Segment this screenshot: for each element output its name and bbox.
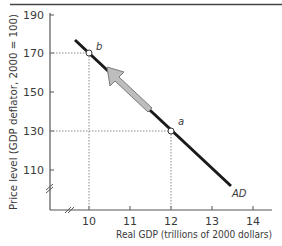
point-a-label: a	[178, 116, 184, 127]
y-tick-130: 130	[23, 125, 44, 138]
point-b	[86, 50, 92, 56]
ad-chart: 190 170 150 130 110 10 11 12 13 14 Real …	[0, 0, 282, 246]
ad-curve-label: AD	[231, 188, 247, 199]
y-axis	[46, 13, 54, 210]
x-tick-10: 10	[82, 215, 96, 228]
y-tick-170: 170	[23, 47, 44, 60]
x-tick-14: 14	[246, 215, 260, 228]
y-axis-title: Price level (GDP deflator, 2000 = 100)	[8, 14, 19, 210]
movement-arrow	[107, 67, 152, 112]
x-tick-13: 13	[205, 215, 219, 228]
y-tick-110: 110	[23, 164, 44, 177]
x-axis	[50, 206, 272, 213]
x-axis-title: Real GDP (trillions of 2000 dollars)	[116, 229, 272, 240]
y-tick-150: 150	[23, 86, 44, 99]
y-tick-190: 190	[23, 9, 44, 22]
x-tick-11: 11	[123, 215, 137, 228]
ad-curve	[75, 40, 231, 186]
x-tick-12: 12	[164, 215, 178, 228]
point-a	[168, 128, 174, 134]
point-b-label: b	[96, 41, 102, 52]
